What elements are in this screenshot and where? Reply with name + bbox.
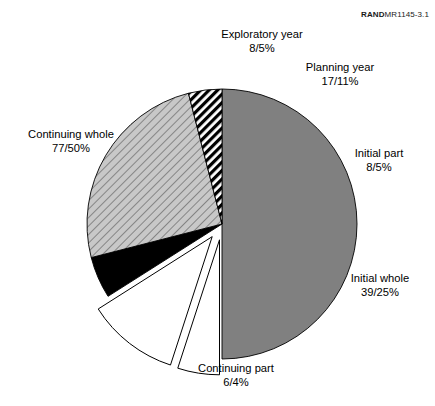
slice-label-exploratory-year-name: Exploratory year (203, 28, 321, 42)
slice-label-continuing-part-name: Continuing part (178, 362, 294, 376)
slice-label-exploratory-year: Exploratory year 8/5% (203, 28, 321, 55)
slice-label-initial-part-value: 8/5% (337, 161, 421, 175)
pie-slice-continuing-whole (222, 89, 357, 359)
slice-label-initial-part: Initial part 8/5% (337, 147, 421, 174)
slice-label-planning-year: Planning year 17/11% (288, 61, 392, 88)
slice-label-initial-whole-value: 39/25% (333, 286, 427, 300)
slice-label-continuing-whole: Continuing whole 77/50% (12, 128, 130, 155)
slice-label-planning-year-value: 17/11% (288, 75, 392, 89)
slice-label-initial-whole: Initial whole 39/25% (333, 272, 427, 299)
slice-label-continuing-part: Continuing part 6/4% (178, 362, 294, 389)
slice-label-exploratory-year-value: 8/5% (203, 42, 321, 56)
figure-container: RANDMR1145-3.1 Exploratory year 8/5% Pla… (0, 0, 435, 406)
slice-label-continuing-whole-name: Continuing whole (12, 128, 130, 142)
slice-label-initial-part-name: Initial part (337, 147, 421, 161)
slice-label-planning-year-name: Planning year (288, 61, 392, 75)
slice-label-continuing-part-value: 6/4% (178, 376, 294, 390)
slice-label-continuing-whole-value: 77/50% (12, 142, 130, 156)
slice-label-initial-whole-name: Initial whole (333, 272, 427, 286)
